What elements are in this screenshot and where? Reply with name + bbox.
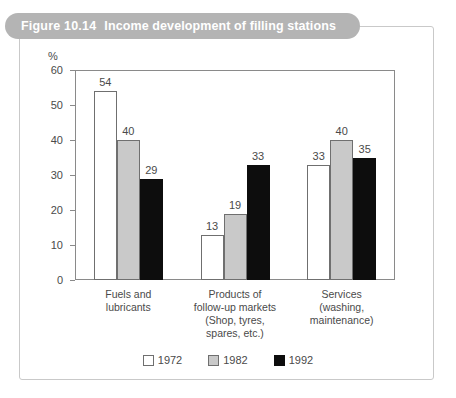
bar-value-label: 33 [247,151,270,162]
figure-container: Figure 10.14 Income development of filli… [0,0,456,398]
bar-series-layer [75,70,395,280]
bar [117,140,140,280]
y-axis-tick-label: 60 [37,65,63,76]
bar-value-label: 35 [353,144,376,155]
x-axis-category-label-line: spares, etc.) [174,327,297,340]
bar-value-label: 19 [224,200,247,211]
y-axis-tick-label: 10 [37,240,63,251]
x-axis-category-label-line: Fuels and [67,288,190,301]
x-axis-category-label-line: Services [280,288,403,301]
x-axis-category-label-line: follow-up markets [174,301,297,314]
legend-item[interactable]: 1982 [208,355,247,366]
bar [201,235,224,281]
legend-item-label: 1992 [289,355,313,366]
bar [330,140,353,280]
bar-value-label: 54 [94,77,117,88]
bar [140,179,163,281]
y-axis-tick-label: 30 [37,170,63,181]
y-axis-unit-label: % [48,50,58,62]
bar [224,214,247,281]
y-axis-tick-mark [70,280,75,281]
bar-value-label: 33 [307,151,330,162]
figure-title-text: Income development of filling stations [104,19,336,33]
x-axis-category-label-line: maintenance) [280,314,403,327]
chart-plot-area: % 0102030405060 544029131933334035 Fuels… [0,0,456,398]
legend-item-label: 1982 [223,355,247,366]
legend-item-label: 1972 [158,355,182,366]
bar-value-label: 13 [201,221,224,232]
x-axis-category-label-line: (washing, [280,301,403,314]
gray-swatch [208,355,219,366]
chart-legend: 197219821992 [0,355,456,366]
bar-value-label: 29 [140,165,163,176]
x-axis-category-label-line: (Shop, tyres, [174,314,297,327]
bar [353,158,376,281]
figure-title-banner: Figure 10.14 Income development of filli… [5,13,360,39]
x-axis-category-label-line: Products of [174,288,297,301]
legend-item[interactable]: 1972 [143,355,182,366]
x-axis-category-label: Fuels andlubricants [67,288,190,314]
bar [307,165,330,281]
y-axis-tick-label: 50 [37,100,63,111]
figure-number-label: Figure 10.14 [21,19,96,33]
x-axis-category-label: Services(washing,maintenance) [280,288,403,327]
white-swatch [143,355,154,366]
bar [247,165,270,281]
bar [94,91,117,280]
bar-value-label: 40 [117,126,140,137]
x-axis-category-label-line: lubricants [67,301,190,314]
y-axis-tick-label: 20 [37,205,63,216]
x-axis-category-label: Products offollow-up markets(Shop, tyres… [174,288,297,340]
y-axis-tick-label: 0 [37,275,63,286]
bar-value-label: 40 [330,126,353,137]
black-swatch [274,355,285,366]
legend-item[interactable]: 1992 [274,355,313,366]
y-axis-tick-label: 40 [37,135,63,146]
